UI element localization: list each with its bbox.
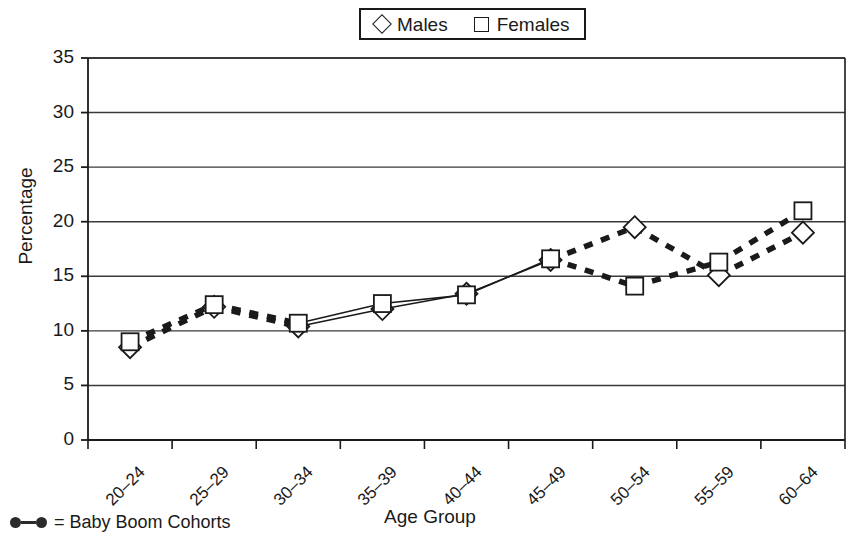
y-tick-label: 25	[28, 155, 74, 177]
y-tick-label: 20	[28, 210, 74, 232]
square-marker-icon	[710, 254, 727, 271]
square-marker-icon	[542, 250, 559, 267]
square-marker-icon	[626, 278, 643, 295]
baby-boom-dashed-segment	[635, 262, 719, 286]
diamond-marker-icon	[792, 222, 814, 244]
y-tick-label: 35	[28, 46, 74, 68]
y-tick-label: 10	[28, 319, 74, 341]
baby-boom-line-icon	[10, 517, 47, 528]
series-solid-segment	[298, 304, 382, 324]
baby-boom-dashed-segment	[214, 305, 298, 324]
baby-boom-dashed-segment	[551, 259, 635, 286]
series-solid-segment	[298, 309, 382, 326]
square-marker-icon	[290, 315, 307, 332]
baby-boom-dashed-segment	[551, 227, 635, 260]
baby-boom-footnote: = Baby Boom Cohorts	[10, 512, 231, 533]
square-marker-icon	[206, 296, 223, 313]
chart-page: Males Females Percentage Age Group 05101…	[0, 0, 860, 552]
y-tick-label: 5	[28, 373, 74, 395]
baby-boom-dashed-segment	[130, 305, 214, 342]
y-tick-label: 0	[28, 428, 74, 450]
series-solid-segment	[382, 295, 466, 304]
baby-boom-dashed-segment	[719, 233, 803, 276]
square-marker-icon	[122, 333, 139, 350]
square-marker-icon	[794, 202, 811, 219]
baby-boom-dashed-segment	[719, 211, 803, 262]
square-marker-icon	[458, 286, 475, 303]
diamond-marker-icon	[624, 216, 646, 238]
y-tick-label: 30	[28, 101, 74, 123]
square-marker-icon	[374, 295, 391, 312]
y-tick-label: 15	[28, 264, 74, 286]
baby-boom-footnote-text: = Baby Boom Cohorts	[54, 512, 231, 533]
